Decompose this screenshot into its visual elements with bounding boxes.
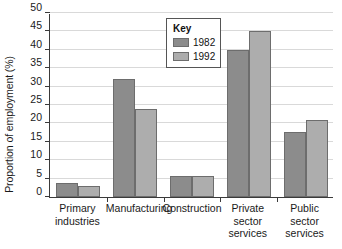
bar bbox=[284, 132, 306, 198]
y-tick-mark bbox=[45, 12, 50, 13]
y-tick-label: 45 bbox=[30, 19, 42, 31]
y-tick-label: 40 bbox=[30, 38, 42, 50]
y-axis-title: Proportion of employment (%) bbox=[0, 0, 18, 249]
x-axis-label: Private sector services bbox=[219, 202, 276, 240]
y-tick-label: 25 bbox=[30, 93, 42, 105]
x-axis-label: Primary industries bbox=[49, 202, 106, 227]
y-tick-label: 50 bbox=[30, 1, 42, 13]
bar-chart: Proportion of employment (%) 05101520253… bbox=[0, 0, 342, 249]
bar bbox=[306, 120, 328, 197]
y-tick-label: 35 bbox=[30, 56, 42, 68]
bar bbox=[56, 183, 78, 197]
legend-swatch bbox=[173, 52, 189, 61]
bar bbox=[249, 31, 271, 197]
chart-legend: Key 19821992 bbox=[166, 18, 221, 68]
legend-label: 1992 bbox=[193, 51, 215, 62]
x-axis-label: Public sector services bbox=[276, 202, 333, 240]
legend-label: 1982 bbox=[193, 37, 215, 48]
y-tick-label: 20 bbox=[30, 111, 42, 123]
legend-swatch bbox=[173, 38, 189, 47]
legend-entries: 19821992 bbox=[173, 37, 214, 62]
bar bbox=[192, 176, 214, 197]
bar bbox=[135, 109, 157, 197]
x-axis-label: Manufacturing bbox=[106, 202, 163, 215]
y-tick-label: 5 bbox=[36, 167, 42, 179]
y-tick-label: 10 bbox=[30, 148, 42, 160]
x-axis-label: Construction bbox=[163, 202, 220, 215]
legend-entry: 1992 bbox=[173, 51, 214, 62]
bar bbox=[113, 79, 135, 197]
bar bbox=[170, 176, 192, 197]
bar bbox=[227, 50, 249, 197]
legend-title: Key bbox=[173, 23, 214, 34]
gridline bbox=[50, 12, 333, 13]
y-tick-label: 0 bbox=[36, 185, 42, 197]
legend-entry: 1982 bbox=[173, 37, 214, 48]
bar bbox=[78, 186, 100, 197]
y-tick-label: 15 bbox=[30, 130, 42, 142]
y-tick-label: 30 bbox=[30, 75, 42, 87]
